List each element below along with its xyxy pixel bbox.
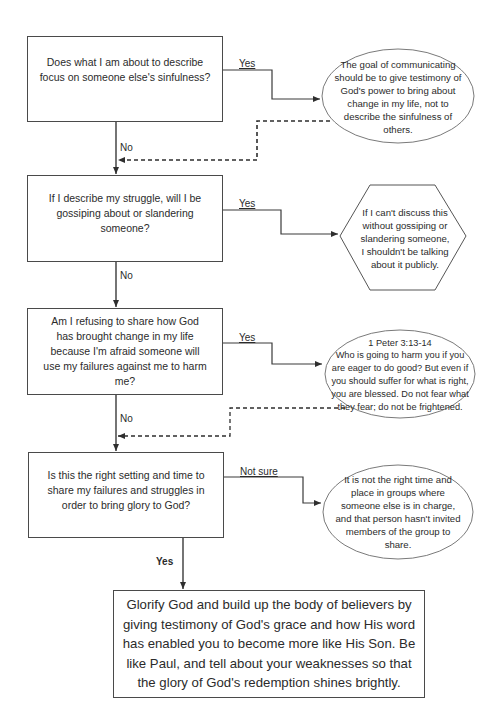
question-box-3: Am I refusing to share how God has broug… — [27, 308, 223, 395]
q3-no-label: No — [120, 413, 133, 424]
q2-yes-connector — [222, 210, 338, 234]
q1-no-label: No — [120, 142, 133, 153]
q4-not-sure-connector — [222, 477, 321, 503]
q1-yes-connector — [222, 70, 320, 99]
q3-yes-connector — [222, 343, 322, 364]
q2-no-label: No — [120, 270, 133, 281]
outcome-text-2: If I can't discuss this without gossipin… — [360, 190, 450, 286]
return-dashed-1 — [118, 121, 330, 160]
scripture-text: Who is going to harm you if you are eage… — [331, 349, 469, 413]
question-box-1: Does what I am about to describe focus o… — [27, 36, 223, 122]
q4-not-sure-label: Not sure — [240, 466, 278, 477]
outcome-text-4: It is not the right time and place in gr… — [334, 474, 462, 550]
outcome-text-3: 1 Peter 3:13-14 Who is going to harm you… — [331, 338, 469, 412]
question-text-3: Am I refusing to share how God has broug… — [42, 314, 208, 389]
conclusion-text: Glorify God and build up the body of bel… — [120, 595, 418, 693]
question-text-1: Does what I am about to describe focus o… — [36, 55, 214, 85]
q4-yes-label: Yes — [156, 556, 173, 567]
question-box-4: Is this the right setting and time to sh… — [28, 452, 224, 538]
question-text-4: Is this the right setting and time to sh… — [35, 468, 217, 513]
outcome-text-1: The goal of communicating should be to g… — [330, 58, 466, 136]
q2-yes-label: Yes — [239, 198, 255, 209]
return-dashed-3 — [118, 408, 345, 436]
question-text-2: If I describe my struggle, will I be gos… — [38, 191, 212, 236]
conclusion-box: Glorify God and build up the body of bel… — [113, 590, 425, 698]
question-box-2: If I describe my struggle, will I be gos… — [27, 175, 223, 262]
q3-yes-label: Yes — [239, 332, 255, 343]
q1-yes-label: Yes — [239, 58, 255, 69]
scripture-reference: 1 Peter 3:13-14 — [368, 337, 431, 350]
